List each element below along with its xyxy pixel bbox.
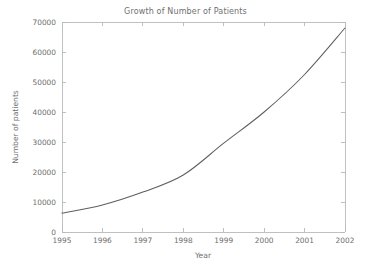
y-axis-title: Number of patients bbox=[11, 90, 20, 164]
x-tick-label: 1998 bbox=[174, 236, 193, 245]
y-tick-label: 60000 bbox=[32, 48, 56, 57]
y-axis-tick-labels: 010000200003000040000500006000070000 bbox=[32, 18, 56, 237]
chart-figure: Growth of Number of Patients 01000020000… bbox=[0, 0, 371, 270]
y-tick-label: 30000 bbox=[32, 138, 56, 147]
x-tick-label: 1997 bbox=[133, 236, 152, 245]
axis-tick-marks bbox=[62, 22, 345, 232]
y-tick-label: 70000 bbox=[32, 18, 56, 27]
x-tick-label: 1996 bbox=[93, 236, 112, 245]
x-tick-label: 2001 bbox=[295, 236, 314, 245]
y-tick-label: 20000 bbox=[32, 168, 56, 177]
y-tick-label: 50000 bbox=[32, 78, 56, 87]
plot-frame bbox=[62, 22, 345, 232]
x-tick-label: 2002 bbox=[336, 236, 355, 245]
x-axis-tick-labels: 19951996199719981999200020012002 bbox=[53, 236, 355, 245]
x-tick-label: 1995 bbox=[53, 236, 72, 245]
y-tick-label: 10000 bbox=[32, 198, 56, 207]
x-axis-title: Year bbox=[194, 251, 212, 260]
x-tick-label: 2000 bbox=[255, 236, 274, 245]
x-tick-label: 1999 bbox=[214, 236, 233, 245]
patients-growth-line bbox=[62, 28, 345, 213]
plot-canvas: 010000200003000040000500006000070000 199… bbox=[0, 0, 371, 270]
y-tick-label: 40000 bbox=[32, 108, 56, 117]
